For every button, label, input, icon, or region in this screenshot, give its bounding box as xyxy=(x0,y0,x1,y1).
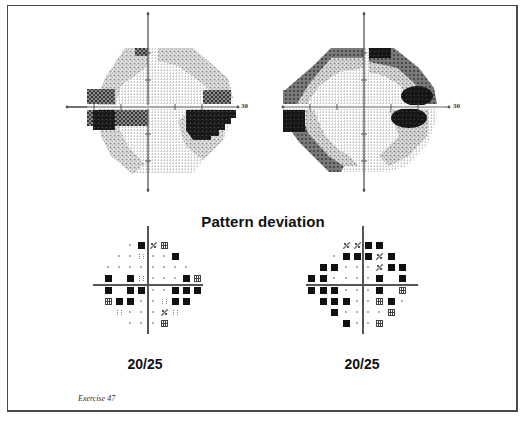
black-square-symbol xyxy=(331,264,338,271)
dot-symbol xyxy=(345,311,347,313)
black-square-symbol xyxy=(388,298,395,305)
dot-symbol xyxy=(345,289,347,291)
black-square-symbol xyxy=(331,298,338,305)
black-square-symbol xyxy=(320,275,327,282)
test-point xyxy=(341,307,351,317)
test-point xyxy=(318,285,328,295)
black-square-symbol xyxy=(308,275,315,282)
black-square-symbol xyxy=(343,320,350,327)
dot-symbol xyxy=(356,300,358,302)
black-square-symbol xyxy=(320,264,327,271)
test-point xyxy=(374,273,384,283)
test-point xyxy=(341,262,351,272)
test-point xyxy=(363,318,373,328)
dot-symbol xyxy=(367,266,369,268)
checker-symbol xyxy=(376,264,383,271)
dot-symbol xyxy=(356,311,358,313)
test-point xyxy=(329,262,339,272)
visual-acuity-right: 20/25 xyxy=(322,356,402,372)
test-point xyxy=(397,262,407,272)
dot-symbol xyxy=(345,266,347,268)
test-point xyxy=(363,251,373,261)
black-square-symbol xyxy=(399,275,406,282)
black-square-symbol xyxy=(376,287,383,294)
test-point xyxy=(329,273,339,283)
test-point xyxy=(374,251,384,261)
test-point xyxy=(329,285,339,295)
test-point xyxy=(397,285,407,295)
test-point xyxy=(374,307,384,317)
black-square-symbol xyxy=(320,287,327,294)
test-point xyxy=(363,240,373,250)
test-point xyxy=(374,318,384,328)
dot-symbol xyxy=(367,289,369,291)
test-point xyxy=(341,318,351,328)
black-square-symbol xyxy=(331,309,338,316)
black-square-symbol xyxy=(388,253,395,260)
black-square-symbol xyxy=(343,253,350,260)
test-point xyxy=(329,251,339,261)
black-square-symbol xyxy=(365,242,372,249)
test-point xyxy=(363,296,373,306)
test-point xyxy=(352,240,362,250)
test-point xyxy=(363,307,373,317)
test-point xyxy=(363,273,373,283)
black-square-symbol xyxy=(376,275,383,282)
test-point xyxy=(306,285,316,295)
dot-symbol xyxy=(367,311,369,313)
dot-symbol xyxy=(367,277,369,279)
dot-symbol xyxy=(401,300,403,302)
test-point xyxy=(352,318,362,328)
test-point xyxy=(397,273,407,283)
test-point xyxy=(374,296,384,306)
black-square-symbol xyxy=(376,242,383,249)
test-point xyxy=(341,285,351,295)
test-point xyxy=(341,273,351,283)
hatch-symbol xyxy=(388,309,395,316)
black-square-symbol xyxy=(354,253,361,260)
test-point xyxy=(341,296,351,306)
pattern-deviation-plot-right xyxy=(0,0,526,424)
black-square-symbol xyxy=(399,264,406,271)
black-square-symbol xyxy=(365,253,372,260)
test-point xyxy=(352,307,362,317)
black-square-symbol xyxy=(388,264,395,271)
test-point xyxy=(352,251,362,261)
test-point xyxy=(352,285,362,295)
dot-symbol xyxy=(378,311,380,313)
dot-symbol xyxy=(356,277,358,279)
test-point xyxy=(386,262,396,272)
dot-symbol xyxy=(333,277,335,279)
test-point xyxy=(318,273,328,283)
test-point xyxy=(386,296,396,306)
test-point xyxy=(341,240,351,250)
test-point xyxy=(397,296,407,306)
test-point xyxy=(374,262,384,272)
test-point xyxy=(386,307,396,317)
test-point xyxy=(329,296,339,306)
test-point xyxy=(318,296,328,306)
black-square-symbol xyxy=(308,287,315,294)
hatch-symbol xyxy=(399,287,406,294)
test-point xyxy=(341,251,351,261)
test-point xyxy=(329,307,339,317)
black-square-symbol xyxy=(343,298,350,305)
test-point xyxy=(352,262,362,272)
dot-symbol xyxy=(367,322,369,324)
test-point xyxy=(318,262,328,272)
black-square-symbol xyxy=(320,298,327,305)
black-square-symbol xyxy=(331,287,338,294)
hatch-symbol xyxy=(376,298,383,305)
checker-symbol xyxy=(376,253,383,260)
dot-symbol xyxy=(356,289,358,291)
test-point xyxy=(386,251,396,261)
dot-symbol xyxy=(356,266,358,268)
dot-symbol xyxy=(345,277,347,279)
checker-symbol xyxy=(354,242,361,249)
test-point xyxy=(363,285,373,295)
test-point xyxy=(374,285,384,295)
dot-symbol xyxy=(367,300,369,302)
dot-symbol xyxy=(356,322,358,324)
test-point xyxy=(374,240,384,250)
test-point xyxy=(352,296,362,306)
